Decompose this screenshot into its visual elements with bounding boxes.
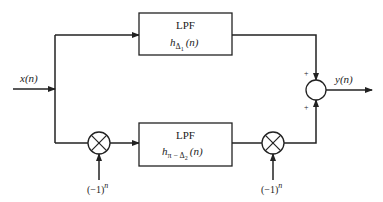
bottom-lpf-block: LPF hπ − Δ2(n): [139, 123, 232, 166]
left-multiplier: [88, 132, 110, 154]
left-modulation-label: (−1)n: [87, 181, 108, 196]
output-label: y(n): [334, 73, 353, 86]
bottom-branch-output-line: [284, 100, 316, 143]
right-modulation-label: (−1)n: [261, 181, 282, 196]
top-block-title: LPF: [176, 19, 195, 31]
right-multiplier: [262, 132, 284, 154]
top-lpf-block: LPF hΔ1(n): [139, 13, 232, 55]
summer-bottom-sign: +: [304, 103, 309, 112]
input-label: x(n): [19, 72, 38, 85]
summing-junction: [306, 80, 326, 100]
bottom-block-title: LPF: [176, 129, 195, 141]
block-diagram: x(n) LPF hΔ1(n) (−1)n LPF hπ − Δ2(n) (−1: [0, 0, 383, 202]
summer-top-sign: +: [304, 69, 309, 78]
